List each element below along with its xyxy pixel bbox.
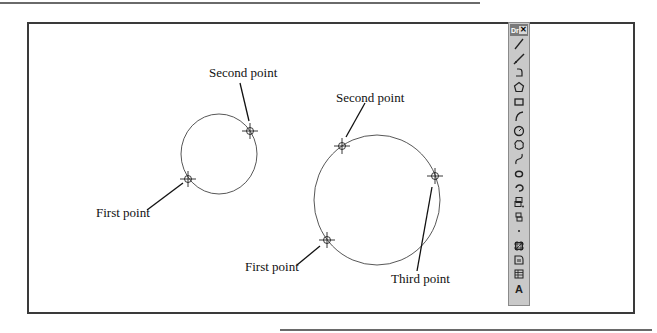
crosshair-marker-small-second (242, 123, 258, 139)
revision-cloud-button[interactable] (509, 138, 529, 152)
label-small-second-point: Second point (209, 66, 277, 79)
rectangle-icon (513, 96, 525, 108)
line-button[interactable] (509, 37, 529, 51)
circle-button[interactable] (509, 123, 529, 137)
small-circle (181, 114, 257, 194)
point-button[interactable] (509, 224, 529, 238)
leader-large-first (297, 246, 320, 265)
ellipse-arc-button[interactable] (509, 181, 529, 195)
hatch-icon (513, 240, 525, 252)
crosshair-marker-large-second (334, 138, 350, 154)
arc-icon (513, 110, 525, 122)
construction-line-icon (513, 53, 525, 65)
region-button[interactable] (509, 253, 529, 267)
toolbar-title-bar[interactable]: Dr ✕ (510, 24, 528, 36)
make-block-icon (513, 211, 525, 223)
polygon-icon (513, 81, 525, 93)
construction-line-button[interactable] (509, 51, 529, 65)
leader-large-second (346, 103, 365, 137)
polygon-button[interactable] (509, 80, 529, 94)
multiline-text-icon: A (515, 283, 523, 295)
leader-small-first (147, 183, 183, 210)
polyline-icon (513, 67, 525, 79)
revision-cloud-icon (513, 139, 525, 151)
crosshair-marker-large-third (427, 168, 443, 184)
crosshair-marker-small-first (180, 171, 196, 187)
polyline-button[interactable] (509, 66, 529, 80)
multiline-text-button[interactable]: A (509, 282, 529, 296)
draw-toolbar: Dr ✕ (508, 22, 530, 306)
toolbar-grip: Dr (511, 27, 519, 34)
make-block-button[interactable] (509, 210, 529, 224)
spline-icon (513, 153, 525, 165)
circle-icon (513, 125, 525, 137)
point-icon (513, 225, 525, 237)
toolbar-close-button[interactable]: ✕ (519, 26, 527, 34)
insert-block-button[interactable] (509, 195, 529, 209)
drawing-canvas[interactable] (0, 0, 657, 333)
ellipse-button[interactable] (509, 167, 529, 181)
table-button[interactable] (509, 267, 529, 281)
line-icon (513, 38, 525, 50)
region-icon (513, 254, 525, 266)
hatch-button[interactable] (509, 238, 529, 252)
label-large-first-point: First point (245, 260, 299, 273)
ellipse-icon (513, 168, 525, 180)
leader-large-third (417, 187, 432, 271)
insert-block-icon (513, 196, 525, 208)
spline-button[interactable] (509, 152, 529, 166)
table-icon (513, 268, 525, 280)
arc-button[interactable] (509, 109, 529, 123)
rectangle-button[interactable] (509, 95, 529, 109)
label-small-first-point: First point (96, 206, 150, 219)
leader-small-second (240, 83, 249, 121)
label-large-second-point: Second point (336, 91, 404, 104)
ellipse-arc-icon (513, 182, 525, 194)
label-large-third-point: Third point (391, 272, 450, 285)
